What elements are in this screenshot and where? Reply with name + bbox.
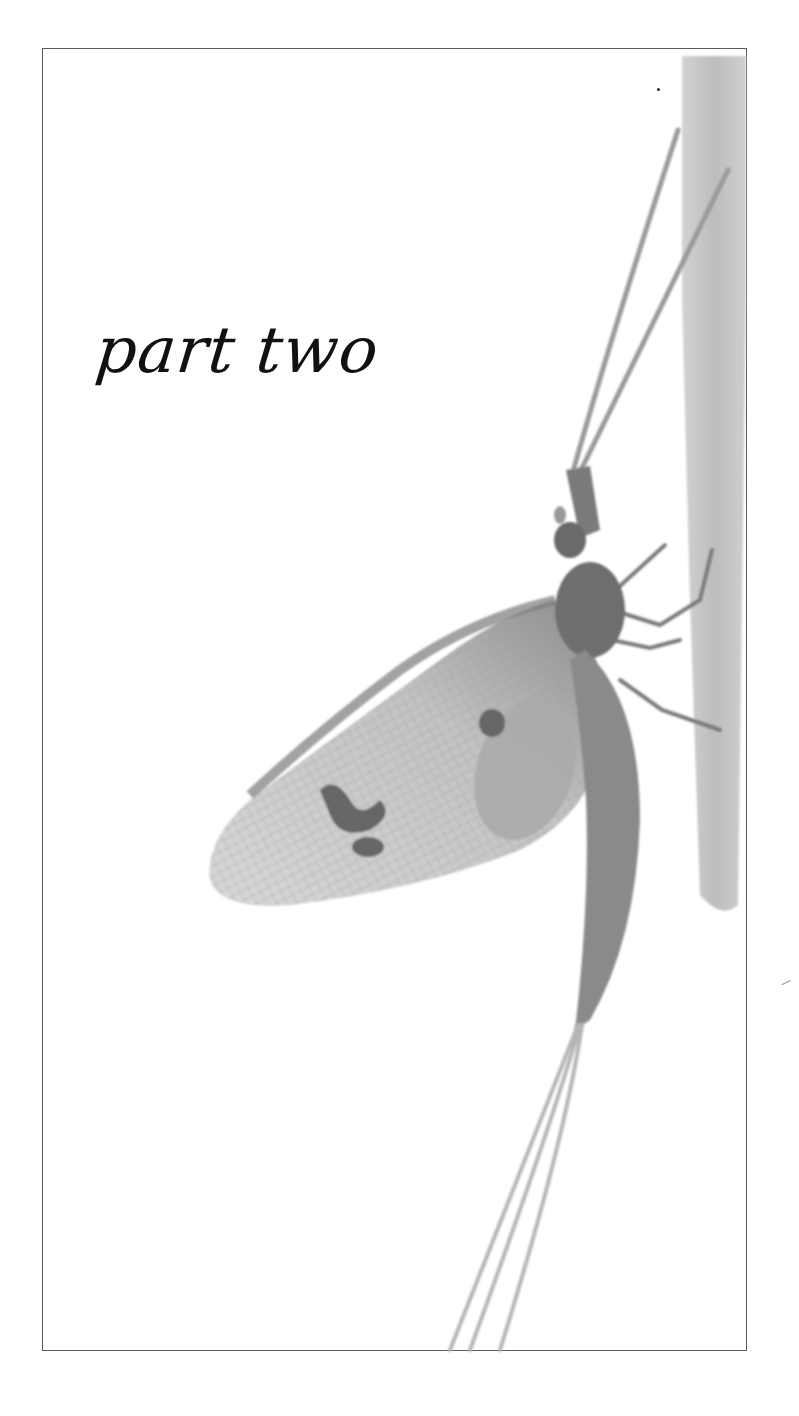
print-speck (657, 88, 660, 91)
plant-stem (682, 56, 746, 911)
insect-head (554, 466, 600, 558)
part-title: part two (93, 318, 383, 382)
insect-wing (210, 600, 604, 906)
mayfly-illustration (0, 0, 799, 1416)
tail-filaments (450, 1025, 582, 1350)
